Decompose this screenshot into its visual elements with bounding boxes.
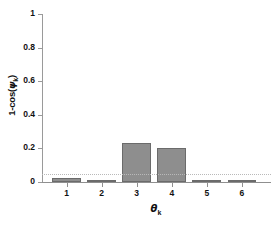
y-axis-tick-mark [38, 182, 42, 183]
bar [52, 178, 81, 182]
y-axis-label-suffix: ) [6, 75, 17, 78]
x-axis-tick-label: 1 [57, 188, 77, 198]
x-axis-tick-mark [67, 183, 68, 187]
x-axis-label: θk [42, 203, 270, 216]
bar-chart-figure: 1-cos(ψk) 00.20.40.60.81 123456 θk [0, 0, 275, 232]
bar [157, 148, 186, 182]
plot-area [42, 14, 270, 182]
y-axis-tick-label: 0.2 [23, 142, 35, 152]
x-axis-tick-mark [102, 183, 103, 187]
x-axis-tick-mark [137, 183, 138, 187]
y-axis-label-prefix: 1-cos( [6, 89, 17, 116]
x-axis-tick-mark [207, 183, 208, 187]
y-axis-label: 1-cos(ψk) [4, 0, 20, 190]
x-axis-tick-mark [242, 183, 243, 187]
x-axis-tick-mark [172, 183, 173, 187]
y-axis-tick-label: 0.4 [23, 109, 35, 119]
x-axis-tick-label: 5 [197, 188, 217, 198]
y-axis-tick-label: 1 [30, 8, 35, 18]
bar [192, 180, 221, 182]
y-axis-label-psi: ψ [6, 81, 17, 88]
y-axis-tick-label: 0 [30, 176, 35, 186]
y-axis-tick-label: 0.6 [23, 75, 35, 85]
x-axis-tick-label: 6 [232, 188, 252, 198]
bar [122, 143, 151, 182]
y-axis-label-subscript: k [11, 78, 18, 82]
x-axis-spine [42, 182, 271, 183]
x-axis-tick-label: 4 [162, 188, 182, 198]
x-axis-tick-label: 2 [92, 188, 112, 198]
threshold-line [42, 174, 271, 175]
bar [228, 180, 257, 182]
bar-series [42, 14, 270, 182]
y-axis-label-text: 1-cos(ψk) [6, 75, 19, 116]
x-axis-tick-label: 3 [127, 188, 147, 198]
y-axis-tick-label: 0.8 [23, 42, 35, 52]
x-axis-label-subscript: k [157, 209, 161, 216]
bar [87, 180, 116, 182]
